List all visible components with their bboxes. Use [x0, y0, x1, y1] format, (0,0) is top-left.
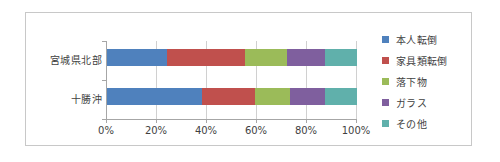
bar-row: [107, 88, 357, 105]
x-tick-label: 80%: [295, 125, 317, 136]
legend-label: 家具類転倒: [396, 53, 448, 68]
x-tick-label: 40%: [195, 125, 217, 136]
legend-swatch-icon: [382, 36, 389, 43]
bar-segment: [287, 49, 325, 66]
tick-mark: [256, 119, 257, 123]
x-tick-label: 0%: [98, 125, 114, 136]
y-tick-mark: [102, 119, 106, 120]
legend-swatch-icon: [382, 78, 389, 85]
legend-swatch-icon: [382, 120, 389, 127]
legend-item: その他: [382, 113, 470, 134]
legend-item: ガラス: [382, 92, 470, 113]
bar-segment: [107, 88, 202, 105]
legend-label: 落下物: [396, 74, 427, 89]
chart-legend: 本人転倒家具類転倒落下物ガラスその他: [382, 29, 470, 134]
x-tick-label: 100%: [342, 125, 371, 136]
legend-swatch-icon: [382, 57, 389, 64]
legend-label: ガラス: [396, 95, 427, 110]
legend-item: 本人転倒: [382, 29, 470, 50]
tick-mark: [156, 119, 157, 123]
bar-segment: [325, 49, 358, 66]
bar-segment: [107, 49, 167, 66]
bar-segment: [202, 88, 255, 105]
bar-segment: [255, 88, 290, 105]
legend-label: その他: [396, 116, 427, 131]
legend-swatch-icon: [382, 99, 389, 106]
bar-segment: [245, 49, 288, 66]
legend-label: 本人転倒: [396, 32, 437, 47]
y-tick-mark: [102, 80, 106, 81]
tick-mark: [206, 119, 207, 123]
tick-mark: [356, 119, 357, 123]
category-label-tokachi: 十勝沖: [24, 91, 102, 106]
bar-segment: [290, 88, 325, 105]
x-tick-label: 60%: [245, 125, 267, 136]
x-tick-label: 20%: [145, 125, 167, 136]
category-label-miyagi: 宮城県北部: [24, 52, 102, 67]
plot-area: [106, 41, 356, 119]
x-axis-line: [106, 119, 357, 120]
category-axis-labels: 宮城県北部 十勝沖: [26, 13, 102, 147]
chart-frame: 宮城県北部 十勝沖 0%20%40%60%80%100% 本人転倒家具類転倒落下…: [25, 12, 472, 146]
bar-segment: [325, 88, 358, 105]
bar-row: [107, 49, 357, 66]
tick-mark: [106, 119, 107, 123]
bar-segment: [167, 49, 245, 66]
tick-mark: [306, 119, 307, 123]
legend-item: 家具類転倒: [382, 50, 470, 71]
legend-item: 落下物: [382, 71, 470, 92]
y-tick-mark: [102, 41, 106, 42]
